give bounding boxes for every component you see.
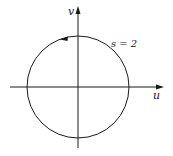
v-axis-arrow-icon [76,6,81,14]
curve-label: s = 2 [111,38,137,49]
u-axis-label: u [153,89,160,102]
v-axis-label: v [68,5,75,18]
uv-plane-diagram: v s = 2 u [0,0,173,156]
